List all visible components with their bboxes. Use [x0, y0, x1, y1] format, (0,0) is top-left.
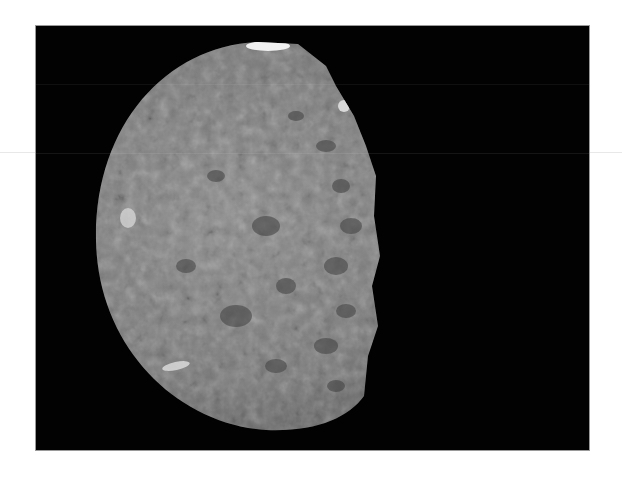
moon-photo: [36, 26, 590, 451]
photo-frame: [35, 25, 590, 451]
